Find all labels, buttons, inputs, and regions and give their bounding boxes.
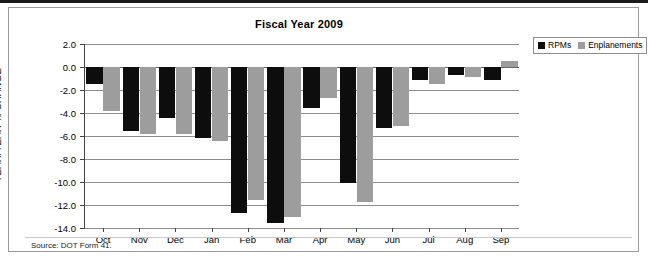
bar-enplanements-jun bbox=[393, 67, 409, 126]
x-axis-tick-label: Aug bbox=[447, 234, 483, 245]
bar-group: Mar bbox=[266, 44, 302, 228]
bar-rpms-may bbox=[340, 67, 356, 183]
bar-series-group: OctNovDecJanFebMarAprMayJunJulAugSep bbox=[85, 44, 519, 228]
figure-top-rule bbox=[0, 0, 648, 3]
bar-rpms-aug bbox=[448, 67, 464, 75]
y-axis-label: YEAR/YEAR % CHANGE bbox=[0, 68, 3, 182]
y-axis-tick-mark bbox=[80, 228, 85, 229]
source-divider bbox=[25, 237, 632, 238]
chart-legend: RPMsEnplanements bbox=[533, 37, 647, 54]
y-axis-tick-label: -12.0 bbox=[54, 200, 76, 211]
bar-group: Sep bbox=[483, 44, 519, 228]
bar-enplanements-feb bbox=[248, 67, 264, 200]
x-axis-tick-mark bbox=[212, 228, 213, 232]
x-axis-tick-label: Mar bbox=[266, 234, 302, 245]
legend-item-label: Enplanements bbox=[588, 40, 642, 50]
x-axis-tick-label: Feb bbox=[230, 234, 266, 245]
legend-swatch-icon bbox=[538, 42, 545, 49]
x-axis-tick-label: Nov bbox=[121, 234, 157, 245]
x-axis-tick-mark bbox=[392, 228, 393, 232]
bar-enplanements-jan bbox=[212, 67, 228, 141]
bar-group: Apr bbox=[302, 44, 338, 228]
bar-rpms-jul bbox=[412, 67, 428, 80]
bar-group: Jul bbox=[411, 44, 447, 228]
bar-rpms-nov bbox=[123, 67, 139, 131]
gridline bbox=[85, 228, 519, 229]
x-axis-tick-label: May bbox=[338, 234, 374, 245]
bar-group: Oct bbox=[85, 44, 121, 228]
bar-group: Feb bbox=[230, 44, 266, 228]
y-axis-tick-label: -2.0 bbox=[60, 85, 76, 96]
bar-rpms-jan bbox=[195, 67, 211, 138]
y-axis-tick-label: -6.0 bbox=[60, 131, 76, 142]
x-axis-tick-mark bbox=[284, 228, 285, 232]
bar-rpms-sep bbox=[484, 67, 500, 80]
x-axis-tick-label: Jan bbox=[194, 234, 230, 245]
x-axis-tick-mark bbox=[139, 228, 140, 232]
y-axis-tick-label: -14.0 bbox=[54, 223, 76, 234]
y-axis-tick-label: 2.0 bbox=[63, 39, 76, 50]
legend-item: Enplanements bbox=[578, 40, 642, 50]
x-axis-tick-label: Apr bbox=[302, 234, 338, 245]
plot-area: 2.00.0-2.0-4.0-6.0-8.0-10.0-12.0-14.0 Oc… bbox=[84, 44, 519, 229]
x-axis-tick-mark bbox=[248, 228, 249, 232]
bar-enplanements-mar bbox=[284, 67, 300, 217]
bar-rpms-apr bbox=[303, 67, 319, 108]
x-axis-tick-label: Dec bbox=[157, 234, 193, 245]
bar-rpms-mar bbox=[267, 67, 283, 223]
bar-rpms-oct bbox=[86, 67, 102, 84]
bar-group: May bbox=[338, 44, 374, 228]
bar-rpms-feb bbox=[231, 67, 247, 213]
bar-enplanements-apr bbox=[320, 67, 336, 98]
x-axis-tick-label: Jun bbox=[374, 234, 410, 245]
y-axis-tick-label: 0.0 bbox=[63, 62, 76, 73]
x-axis-tick-mark bbox=[429, 228, 430, 232]
bar-enplanements-oct bbox=[103, 67, 119, 111]
x-axis-tick-mark bbox=[320, 228, 321, 232]
x-axis-tick-label: Sep bbox=[483, 234, 519, 245]
x-axis-tick-mark bbox=[501, 228, 502, 232]
bar-group: Jan bbox=[194, 44, 230, 228]
bar-enplanements-aug bbox=[465, 67, 481, 77]
x-axis-tick-mark bbox=[356, 228, 357, 232]
bar-group: Dec bbox=[157, 44, 193, 228]
bar-rpms-jun bbox=[376, 67, 392, 128]
bar-group: Nov bbox=[121, 44, 157, 228]
legend-swatch-icon bbox=[578, 42, 585, 49]
bar-enplanements-nov bbox=[140, 67, 156, 134]
bar-enplanements-dec bbox=[176, 67, 192, 134]
x-axis-tick-label: Jul bbox=[411, 234, 447, 245]
bar-group: Aug bbox=[447, 44, 483, 228]
legend-item-label: RPMs bbox=[548, 40, 571, 50]
chart-panel: Fiscal Year 2009 YEAR/YEAR % CHANGE 2.00… bbox=[8, 7, 639, 252]
legend-item: RPMs bbox=[538, 40, 571, 50]
x-axis-tick-mark bbox=[175, 228, 176, 232]
bar-enplanements-jul bbox=[429, 67, 445, 84]
x-axis-tick-mark bbox=[465, 228, 466, 232]
bar-group: Jun bbox=[374, 44, 410, 228]
y-axis-tick-label: -4.0 bbox=[60, 108, 76, 119]
x-axis-tick-mark bbox=[103, 228, 104, 232]
figure-container: Fiscal Year 2009 YEAR/YEAR % CHANGE 2.00… bbox=[0, 0, 648, 261]
y-axis-tick-label: -8.0 bbox=[60, 154, 76, 165]
page-title: Fiscal Year 2009 bbox=[89, 18, 509, 30]
bar-enplanements-may bbox=[357, 67, 373, 202]
y-axis-tick-label: -10.0 bbox=[54, 177, 76, 188]
bar-enplanements-sep bbox=[501, 61, 517, 67]
source-note: Source: DOT Form 41. bbox=[31, 241, 112, 250]
bar-rpms-dec bbox=[159, 67, 175, 118]
